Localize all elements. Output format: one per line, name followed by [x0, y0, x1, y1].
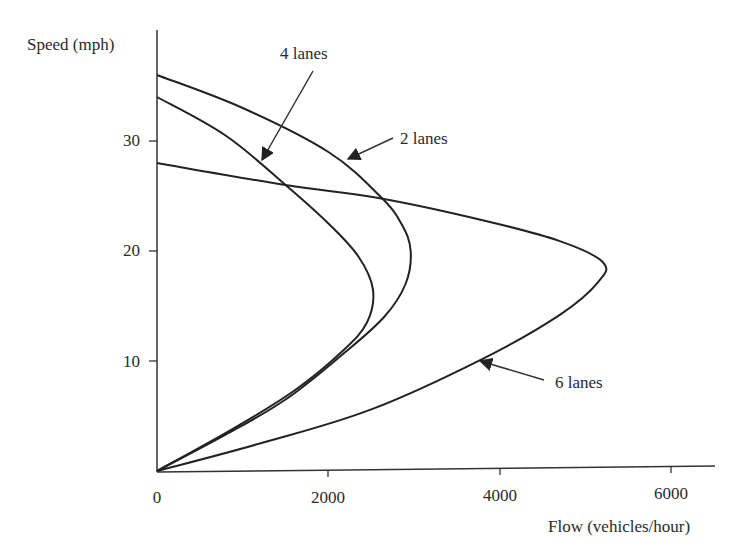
x-tick-label-2000: 2000 [298, 489, 358, 506]
curve-2-lanes [157, 75, 411, 471]
arrow-6-lanes-icon [480, 361, 544, 380]
annotation-2-lanes: 2 lanes [400, 130, 448, 147]
y-axis-label: Speed (mph) [27, 36, 114, 53]
arrow-2-lanes-icon [348, 138, 393, 159]
y-tick-label-20: 20 [100, 242, 140, 259]
y-tick-label-30: 30 [100, 132, 140, 149]
series-layer [157, 75, 606, 471]
x-tick-label-6000: 6000 [641, 485, 701, 502]
curve-6-lanes [157, 163, 606, 471]
annotation-6-lanes: 6 lanes [555, 374, 603, 391]
y-tick-label-10: 10 [100, 353, 140, 370]
x-axis [157, 466, 715, 477]
arrow-4-lanes-icon [262, 71, 313, 160]
chart-plot-area [0, 0, 739, 560]
x-axis-label: Flow (vehicles/hour) [548, 518, 690, 535]
x-tick-label-4000: 4000 [470, 487, 530, 504]
annotation-4-lanes: 4 lanes [280, 45, 328, 62]
y-axis [149, 30, 157, 472]
x-tick-label-0: 0 [127, 489, 187, 506]
